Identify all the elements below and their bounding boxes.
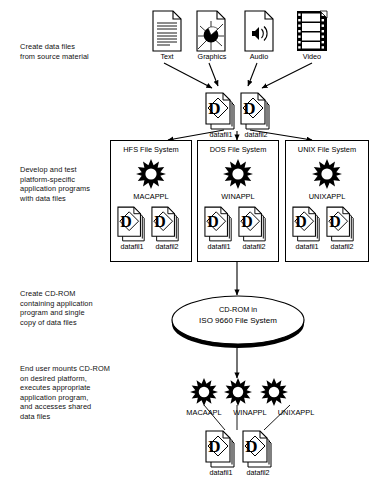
enduser-app-label-unix: UNIXAPPL (272, 409, 320, 417)
platform-app-name-dos: WINAPPL (197, 192, 279, 201)
starburst-application-icon[interactable] (136, 159, 166, 189)
starburst-application-icon[interactable] (312, 159, 342, 189)
svg-text:D: D (243, 99, 255, 118)
caption-create-cdrom: Create CD-ROM containing application pro… (20, 289, 135, 327)
starburst-application-icon[interactable] (224, 378, 252, 406)
svg-text:D: D (295, 213, 307, 230)
enduser-app-label-win: WINAPPL (228, 409, 272, 417)
svg-text:D: D (208, 99, 220, 118)
data-document-icon: D (240, 92, 272, 130)
caption-end-user-mounts: End user mounts CD-ROM on desired platfo… (20, 364, 148, 422)
datafile-label-hfs-2: datafil2 (146, 243, 188, 251)
svg-text:D: D (154, 213, 166, 230)
platform-title-hfs: HFS File System (110, 145, 192, 154)
platform-app-name-unix: UNIXAPPL (285, 192, 369, 201)
svg-text:D: D (241, 213, 253, 230)
source-label-video: Video (288, 53, 336, 61)
cdrom-label-line1: CD-ROM in (168, 305, 308, 314)
data-document-icon: D (205, 430, 237, 468)
svg-text:D: D (245, 437, 257, 456)
platform-title-dos: DOS File System (197, 145, 279, 154)
starburst-application-icon[interactable] (190, 378, 218, 406)
data-document-icon: D (117, 206, 147, 242)
source-label-audio: Audio (236, 53, 282, 61)
data-document-icon: D (151, 206, 181, 242)
starburst-application-icon[interactable] (223, 159, 253, 189)
datafile-label-dos-2: datafil2 (233, 243, 275, 251)
data-document-icon: D (205, 92, 237, 130)
data-document-icon: D (292, 206, 322, 242)
enduser-app-label-mac: MACAAPL (180, 409, 228, 417)
platform-app-name-hfs: MACAPPL (110, 192, 192, 201)
datafile-label-unix-2: datafil2 (321, 243, 363, 251)
starburst-application-icon[interactable] (260, 378, 288, 406)
source-label-text: Text (145, 53, 189, 61)
svg-text:D: D (208, 437, 220, 456)
data-document-icon: D (242, 430, 274, 468)
svg-text:D: D (120, 213, 132, 230)
svg-text:D: D (329, 213, 341, 230)
audio-document-icon (244, 10, 274, 52)
arrows-sources-to-datafiles (164, 63, 312, 88)
data-document-icon: D (204, 206, 234, 242)
data-document-icon: D (238, 206, 268, 242)
source-label-graphics: Graphics (186, 53, 238, 61)
diagram-canvas: Create data files from source material D… (0, 0, 383, 502)
platform-title-unix: UNIX File System (285, 145, 369, 154)
graphics-document-icon (196, 10, 226, 52)
datafile-label-shared-2: datafil2 (236, 469, 280, 477)
cdrom-label-line2: ISO 9660 File System (168, 316, 308, 325)
data-document-icon: D (326, 206, 356, 242)
datafile-label-top-2: datafil2 (234, 131, 278, 139)
svg-text:D: D (207, 213, 219, 230)
text-document-icon (152, 10, 182, 52)
caption-create-data-files: Create data files from source material (20, 42, 130, 61)
video-filmstrip-icon (296, 10, 328, 52)
